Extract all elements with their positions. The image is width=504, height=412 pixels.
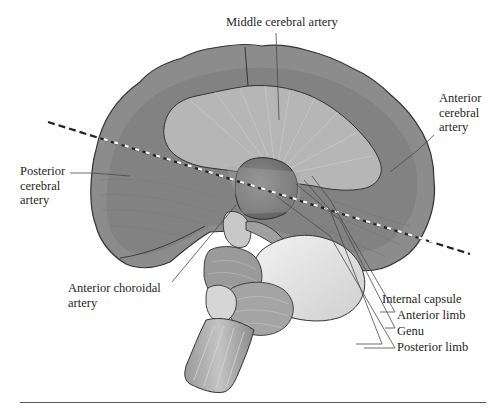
label-line: Posterior <box>20 164 65 179</box>
label-middle-cerebral-artery: Middle cerebral artery <box>226 15 338 30</box>
label-line: Anterior <box>439 91 481 106</box>
label-line: artery <box>439 120 481 135</box>
label-anterior-limb: Anterior limb <box>397 308 465 323</box>
label-line: artery <box>68 296 161 311</box>
brainstem <box>185 318 254 392</box>
caption-divider <box>20 402 486 403</box>
label-anterior-choroidal-artery: Anterior choroidal artery <box>68 281 161 310</box>
label-internal-capsule: Internal capsule <box>382 292 461 307</box>
label-anterior-cerebral-artery: Anterior cerebral artery <box>439 91 481 135</box>
label-line: artery <box>20 193 65 208</box>
label-line: cerebral <box>439 106 481 121</box>
label-posterior-cerebral-artery: Posterior cerebral artery <box>20 164 65 208</box>
label-posterior-limb: Posterior limb <box>397 340 468 355</box>
label-line: cerebral <box>20 179 65 194</box>
label-line: Anterior choroidal <box>68 281 161 296</box>
label-genu: Genu <box>397 324 424 339</box>
